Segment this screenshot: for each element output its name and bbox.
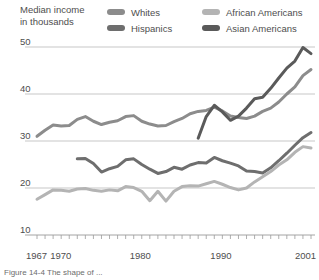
figure-caption: Figure 14-4 The shape of ... — [4, 268, 244, 278]
legend-label-asian-americans: Asian Americans — [226, 23, 297, 34]
y-tick-label-30: 30 — [20, 130, 38, 141]
y-tick-label-10: 10 — [20, 224, 38, 235]
legend-label-african-americans: African Americans — [226, 7, 303, 18]
figure-median-income-chart: Median income in thousands Whites Hispan… — [0, 0, 319, 280]
x-tick-label-1980: 1980 — [130, 250, 151, 261]
x-tick-label-2001: 2001 — [295, 250, 316, 261]
x-tick-label-1967: 1967 — [26, 250, 47, 261]
x-tick-label-1990: 1990 — [210, 250, 231, 261]
chart-svg — [0, 40, 319, 252]
legend-item-asian-americans: Asian Americans — [202, 21, 297, 35]
y-axis-title: Median income in thousands — [20, 4, 105, 27]
legend-item-african-americans: African Americans — [202, 5, 303, 19]
y-axis-title-line1: Median income — [20, 4, 105, 16]
legend-swatch-african-americans — [202, 9, 220, 15]
legend-swatch-hispanics — [107, 25, 125, 31]
legend-item-hispanics: Hispanics — [107, 21, 172, 35]
x-tick-label-1970: 1970 — [50, 250, 71, 261]
legend-label-whites: Whites — [131, 7, 160, 18]
y-tick-label-50: 50 — [20, 36, 38, 47]
legend-item-whites: Whites — [107, 5, 160, 19]
y-axis-title-line2: in thousands — [20, 16, 105, 28]
series-line-asian-americans — [198, 47, 311, 138]
series-line-african-americans — [37, 147, 311, 202]
legend-label-hispanics: Hispanics — [131, 23, 172, 34]
chart-header: Median income in thousands Whites Hispan… — [0, 0, 319, 40]
x-axis-labels: 19671970198019902001 — [0, 250, 319, 264]
y-tick-label-20: 20 — [20, 177, 38, 188]
series-line-whites — [37, 70, 311, 137]
legend-swatch-whites — [107, 9, 125, 15]
chart-legend: Whites Hispanics African Americans Asian… — [107, 5, 317, 37]
legend-swatch-asian-americans — [202, 25, 220, 31]
plot-area — [0, 40, 319, 252]
y-tick-label-40: 40 — [20, 83, 38, 94]
